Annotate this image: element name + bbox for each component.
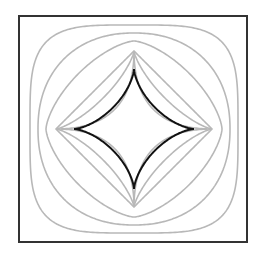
superellipse-family [30,25,238,233]
superellipse-curve-3 [46,41,222,217]
superellipse-diagram [0,0,261,255]
astroid-curve [74,69,194,189]
